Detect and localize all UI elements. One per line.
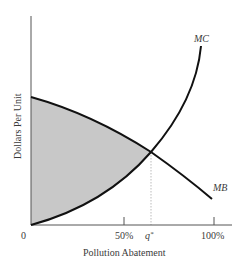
chart-canvas: MC MB 0 50% q* 100% Pollution Abatement … <box>0 0 246 263</box>
net-benefit-shaded-area <box>31 97 151 225</box>
mc-label: MC <box>193 33 209 44</box>
x-axis-title: Pollution Abatement <box>83 247 166 258</box>
tick-q-star-label: q* <box>145 230 154 241</box>
tick-50-label: 50% <box>115 230 133 241</box>
origin-label: 0 <box>21 230 26 241</box>
mb-label: MB <box>212 182 227 193</box>
tick-100-label: 100% <box>201 230 224 241</box>
y-axis-title: Dollars Per Unit <box>12 93 23 159</box>
